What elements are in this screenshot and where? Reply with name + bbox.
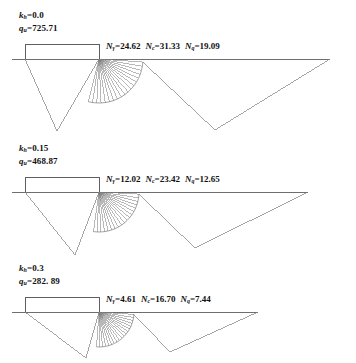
panel-1-nq-value: 19.09 [200,41,220,51]
panel-2-qu-label: qu=468.87 [19,156,58,166]
panel-1-radial-line [99,59,128,92]
panel-3-kh-label: kh=0.3 [19,263,44,273]
panel-2-nq-value: 12.65 [200,174,220,184]
panel-1-ngamma-value: 24.62 [120,41,140,51]
panel-2-kh-value: 0.15 [32,143,48,153]
geometry-layer [12,44,330,358]
panel-1-radial-line [99,59,125,95]
panel-3-qu-label: qu=282. 89 [19,276,60,286]
panel-2-passive-wedge-outer-edge [195,192,308,248]
panel-1-passive-wedge-outer-edge [215,59,330,130]
panel-1-qu-value: 725.71 [32,23,57,33]
panel-3-active-wedge-left-edge [25,312,86,358]
panel-2-active-wedge-left-edge [25,192,75,255]
panel-1-kh-label: kh=0.0 [19,10,44,20]
panel-2-active-wedge-edge [75,192,99,255]
panel-2-factors-label: Nγ=12.02Nc=23.42Nq=12.65 [106,174,220,184]
panel-3-qu-value: 282. 89 [32,276,60,286]
panel-2-qu-value: 468.87 [32,156,57,166]
panel-3-passive-wedge-outer-edge [170,312,258,352]
panel-1-active-wedge-edge [57,59,99,131]
bearing-capacity-failure-figure: kh=0.0 qu=725.71 Nγ=24.62Nc=31.33Nq=19.0… [0,0,356,363]
panel-2-kh-label: kh=0.15 [19,143,48,153]
panel-1-active-wedge-left-edge [25,59,57,131]
panel-1-radial-line [99,59,134,86]
panel-3-nq-value: 7.44 [195,294,211,304]
panel-2-ngamma-value: 12.02 [120,174,140,184]
panel-1-kh-value: 0.0 [32,10,44,20]
panel-3-kh-value: 0.3 [32,263,44,273]
panel-1-factors-label: Nγ=24.62Nc=31.33Nq=19.09 [106,41,220,51]
panel-3-factors-label: Nγ=4.61Nc=16.70Nq=7.44 [106,294,211,304]
panel-2-nc-value: 23.42 [160,174,180,184]
panel-1-qu-label: qu=725.71 [19,23,58,33]
panel-1-passive-wedge-inner-edge [143,62,215,130]
panel-3-ngamma-value: 4.61 [120,294,136,304]
panel-2-passive-wedge-inner-edge [139,194,195,248]
panel-2-radial-line [99,192,127,220]
panel-1-nc-value: 31.33 [160,41,180,51]
panel-3-active-wedge-edge [86,312,99,358]
panel-3-passive-wedge-inner-edge [134,314,170,352]
panel-3-nc-value: 16.70 [155,294,175,304]
